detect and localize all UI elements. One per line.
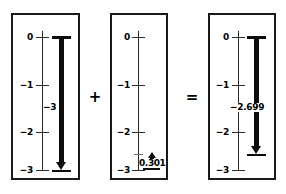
axis-tick-m2-p3 <box>232 132 245 133</box>
axis-tick-0-p3 <box>232 37 245 38</box>
axis-tick-label-0-p2: 0 <box>108 33 130 42</box>
axis-tick-label-m3-p2: −3 <box>108 166 130 175</box>
axis-line-1 <box>42 31 43 171</box>
axis-tick-m3-p3 <box>232 170 245 171</box>
axis-tick-m1-p3 <box>232 85 245 86</box>
axis-tick-label-0-p1: 0 <box>11 33 33 42</box>
panel-result: 0 −1 −2 −3 −2.699 <box>208 13 276 180</box>
axis-tick-label-m3-p1: −3 <box>11 166 33 175</box>
arrow-shaft-p1 <box>59 38 64 164</box>
axis-tick-m3-p1 <box>36 170 49 171</box>
axis-tick-label-m1-p3: −1 <box>207 81 229 90</box>
axis-tick-label-m3-p3: −3 <box>207 166 229 175</box>
axis-tick-m2699-p2 <box>134 154 143 155</box>
arrow-shaft-p3 <box>254 38 259 148</box>
axis-tick-m3-p2 <box>132 170 145 171</box>
axis-line-3 <box>238 31 239 171</box>
axis-tick-m2-p1 <box>36 132 49 133</box>
axis-line-2 <box>138 31 139 171</box>
arrow-head-down-p3 <box>251 146 261 154</box>
axis-tick-m1-p1 <box>36 85 49 86</box>
operator-equals: = <box>183 90 201 105</box>
axis-tick-0-p1 <box>36 37 49 38</box>
arrow-bottom-cap-p1 <box>52 170 71 172</box>
panel-characteristic: 0 −1 −2 −3 −3 <box>11 13 80 180</box>
axis-tick-0-p2 <box>132 37 145 38</box>
arrow-value-label-p3: −2.699 <box>230 103 264 112</box>
arrow-bottom-cap-p2 <box>143 168 160 170</box>
axis-tick-label-m2-p1: −2 <box>11 128 33 137</box>
axis-tick-label-m2-p2: −2 <box>108 128 130 137</box>
arrow-head-down-p1 <box>56 162 66 170</box>
axis-tick-m2-p2 <box>132 132 145 133</box>
axis-tick-label-m2-p3: −2 <box>207 128 229 137</box>
arrow-value-label-p1: −3 <box>43 103 56 112</box>
panel-mantissa: 0 −1 −2 −3 0.301 <box>110 13 168 180</box>
operator-plus: + <box>86 90 104 105</box>
arrow-value-label-p2: 0.301 <box>139 159 165 168</box>
axis-tick-m1-p2 <box>132 85 145 86</box>
axis-tick-label-0-p3: 0 <box>207 33 229 42</box>
arrow-bottom-cap-p3 <box>247 154 266 156</box>
logarithm-number-line-figure: 0 −1 −2 −3 −3 + 0 −1 −2 −3 0.301 <box>0 0 286 194</box>
axis-tick-label-m1-p1: −1 <box>11 81 33 90</box>
axis-tick-label-m1-p2: −1 <box>108 81 130 90</box>
